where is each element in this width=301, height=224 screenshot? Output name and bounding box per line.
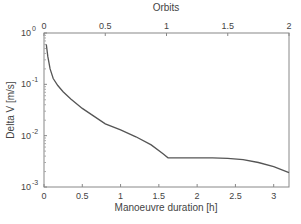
top-tick-label: 0.5 — [99, 21, 112, 31]
x-tick-label: 3 — [271, 191, 276, 201]
y-tick-label: 10 — [21, 182, 31, 192]
x-tick-label: 1 — [118, 191, 123, 201]
svg-text:-1: -1 — [32, 76, 38, 83]
plot-frame — [44, 33, 289, 187]
top-tick-label: 0 — [41, 21, 46, 31]
x-tick-label: 2.5 — [229, 191, 242, 201]
top-axis-label: Orbits — [153, 2, 180, 13]
x-axis-label: Manoeuvre duration [h] — [115, 202, 218, 213]
y-tick-label: 10 — [21, 79, 31, 89]
top-tick-label: 1 — [164, 21, 169, 31]
x-tick-label: 0 — [41, 191, 46, 201]
x-tick-label: 1.5 — [153, 191, 166, 201]
top-tick-label: 2 — [286, 21, 291, 31]
svg-text:-2: -2 — [32, 128, 38, 135]
delta-v-line — [46, 44, 289, 172]
y-tick-label: 10 — [21, 28, 31, 38]
x-tick-label: 2 — [195, 191, 200, 201]
svg-text:0: 0 — [32, 25, 36, 32]
y-axis-label: Delta V [m/s] — [5, 81, 16, 138]
delta-v-chart: 00.511.522.5300.511.5210010-110-210-3 De… — [0, 0, 301, 224]
top-tick-label: 1.5 — [221, 21, 234, 31]
svg-text:-3: -3 — [32, 179, 38, 186]
x-tick-label: 0.5 — [76, 191, 89, 201]
y-tick-label: 10 — [21, 131, 31, 141]
